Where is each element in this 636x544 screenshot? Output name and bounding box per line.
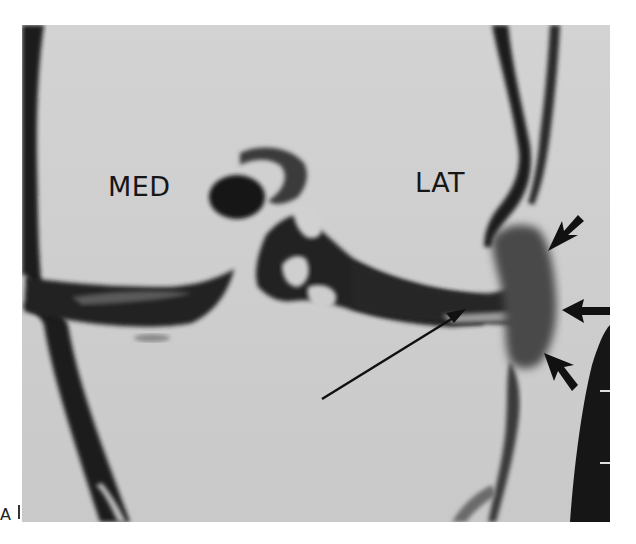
arthrogram-image: MED LAT [22,25,610,522]
medial-label: MED [108,171,171,202]
scale-tick [600,390,610,392]
cruciate-pouch [209,175,265,219]
panel-tick-mark [18,505,20,519]
panel-label: A [0,505,11,524]
lateral-label: LAT [415,167,465,198]
scale-tick [600,462,610,464]
arthrogram-drawing [22,25,610,522]
